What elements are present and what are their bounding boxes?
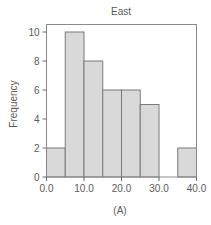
histogram-bar	[65, 32, 84, 177]
y-axis-label: Frequency	[8, 80, 19, 127]
histogram-chart: East 0246810 0.010.020.030.040.0 Frequen…	[0, 0, 211, 225]
chart-title: East	[111, 6, 131, 17]
x-axis: 0.010.020.030.040.0	[40, 177, 207, 194]
histogram-bar	[140, 105, 159, 178]
y-tick-label: 4	[34, 114, 40, 125]
x-tick-label: 0.0	[40, 183, 54, 194]
bars-group	[47, 32, 197, 177]
x-tick-label: 30.0	[149, 183, 169, 194]
histogram-bar	[178, 148, 197, 177]
x-tick-label: 20.0	[112, 183, 132, 194]
x-tick-label: 40.0	[187, 183, 207, 194]
histogram-bar	[84, 61, 103, 177]
y-axis: 0246810	[28, 27, 46, 183]
y-tick-label: 6	[34, 85, 40, 96]
y-tick-label: 10	[28, 27, 40, 38]
histogram-bar	[122, 90, 141, 177]
y-tick-label: 8	[34, 56, 40, 67]
y-tick-label: 0	[34, 172, 40, 183]
x-axis-label: (A)	[113, 205, 126, 216]
y-tick-label: 2	[34, 143, 40, 154]
x-tick-label: 10.0	[74, 183, 94, 194]
histogram-bar	[103, 90, 122, 177]
histogram-bar	[47, 148, 66, 177]
